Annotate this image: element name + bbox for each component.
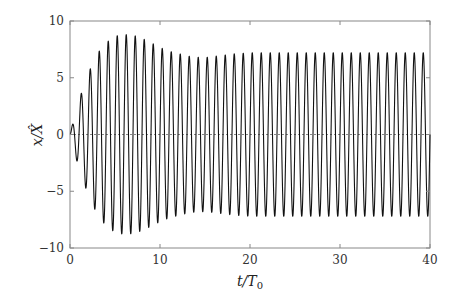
x-tick-label: 10 bbox=[152, 253, 167, 267]
y-tick-label: 0 bbox=[56, 128, 64, 142]
y-tick-label: −5 bbox=[46, 184, 64, 198]
x-tick-label: 0 bbox=[66, 253, 74, 267]
y-tick-label: −10 bbox=[39, 241, 64, 255]
y-tick-label: 5 bbox=[56, 71, 64, 85]
chart: 010203040 −10−50510 t/T0 x/X̂ bbox=[0, 0, 454, 299]
y-tick-label: 10 bbox=[49, 14, 64, 28]
x-tick-label: 40 bbox=[422, 253, 437, 267]
x-axis-label: t/T0 bbox=[237, 273, 263, 291]
y-axis-label: x/X̂ bbox=[28, 123, 45, 147]
response-curve bbox=[70, 35, 430, 234]
x-tick-label: 30 bbox=[332, 253, 347, 267]
x-tick-label: 20 bbox=[242, 253, 257, 267]
